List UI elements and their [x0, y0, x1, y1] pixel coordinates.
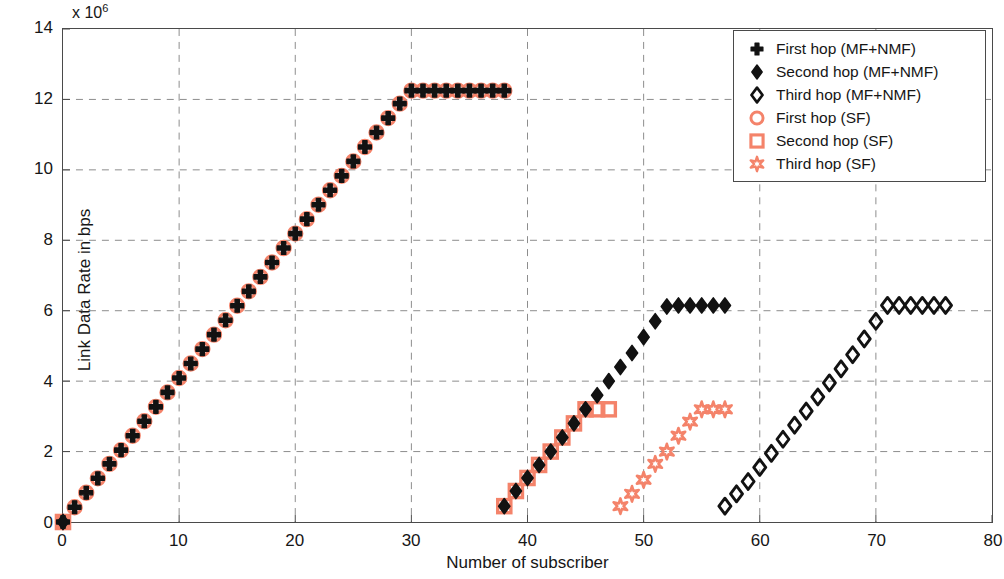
legend-label: Third hop (SF) [776, 155, 876, 173]
x-tick-label: 10 [169, 531, 188, 551]
y-tick-label: 2 [44, 442, 53, 462]
x-tick-label: 0 [57, 531, 66, 551]
legend-marker-star-icon [738, 153, 776, 175]
series-third-hop-mf-nmf [719, 297, 952, 514]
legend-item[interactable]: Second hop (SF) [738, 129, 979, 152]
legend-marker-diamond-open-icon [738, 84, 776, 106]
y-tick-label: 4 [44, 372, 53, 392]
y-tick-label: 0 [44, 513, 53, 533]
y-tick-label: 12 [34, 89, 53, 109]
y-axis-exponent-label: x 106 [72, 2, 108, 22]
legend-label: First hop (MF+NMF) [776, 40, 916, 58]
series-first-hop-sf [56, 84, 510, 529]
series-first-hop-mf-nmf [57, 84, 511, 528]
y-axis-exponent-power: 6 [102, 2, 108, 14]
chart-legend: First hop (MF+NMF)Second hop (MF+NMF)Thi… [733, 30, 986, 182]
x-tick-label: 40 [518, 531, 537, 551]
legend-item[interactable]: Third hop (MF+NMF) [738, 83, 979, 106]
legend-label: Second hop (MF+NMF) [776, 63, 938, 81]
legend-item[interactable]: Second hop (MF+NMF) [738, 60, 979, 83]
x-tick-label: 30 [402, 531, 421, 551]
series-third-hop-sf [614, 402, 732, 514]
legend-marker-circle-icon [738, 107, 776, 129]
y-axis-exponent-mantissa: x 10 [72, 4, 102, 21]
legend-item[interactable]: Third hop (SF) [738, 152, 979, 175]
y-tick-label: 14 [34, 18, 53, 38]
y-tick-label: 8 [44, 230, 53, 250]
chart-figure: x 106 Link Data Rate in bps Number of su… [0, 0, 1004, 579]
legend-marker-plus-icon [738, 38, 776, 60]
y-tick-label: 10 [34, 159, 53, 179]
x-axis-title: Number of subscriber [62, 553, 993, 573]
x-tick-label: 80 [984, 531, 1003, 551]
legend-marker-diamond-filled-icon [738, 61, 776, 83]
x-tick-label: 70 [867, 531, 886, 551]
x-tick-label: 50 [634, 531, 653, 551]
legend-label: First hop (SF) [776, 109, 871, 127]
x-tick-label: 60 [751, 531, 770, 551]
legend-item[interactable]: First hop (MF+NMF) [738, 37, 979, 60]
x-tick-label: 20 [285, 531, 304, 551]
legend-label: Third hop (MF+NMF) [776, 86, 921, 104]
legend-marker-square-icon [738, 130, 776, 152]
y-tick-label: 6 [44, 301, 53, 321]
legend-label: Second hop (SF) [776, 132, 893, 150]
legend-item[interactable]: First hop (SF) [738, 106, 979, 129]
